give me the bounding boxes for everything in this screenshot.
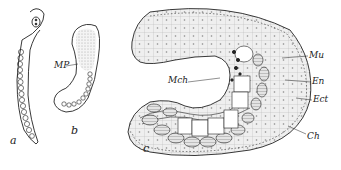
- label-mp: MP: [54, 61, 69, 70]
- label-ect: Ect: [313, 95, 328, 104]
- panel-label-a: a: [10, 135, 17, 146]
- label-mu: Mu: [309, 51, 324, 60]
- panel-a-larva: [17, 9, 44, 144]
- label-ch: Ch: [307, 132, 320, 141]
- panel-label-c: c: [143, 143, 149, 154]
- panel-c-section: [128, 9, 312, 156]
- panel-label-b: b: [71, 125, 78, 136]
- embryo-figure: [0, 0, 341, 170]
- label-en: En: [312, 77, 324, 86]
- label-mch: Mch: [168, 76, 188, 85]
